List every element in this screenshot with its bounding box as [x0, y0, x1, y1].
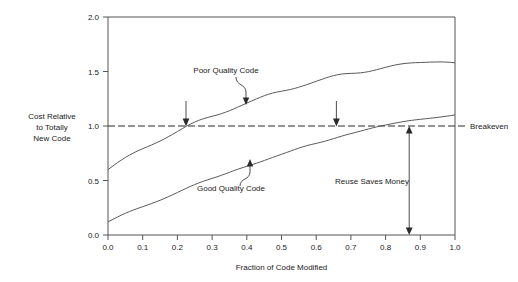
reuse-saves-money-label: Reuse Saves Money	[335, 177, 409, 186]
x-axis-ticks	[108, 235, 455, 240]
x-tick-label-1: 0.1	[137, 243, 149, 252]
y-axis-tick-labels: 0.0 0.5 1.0 1.5 2.0	[88, 13, 100, 240]
savings-span-arrowhead-bottom	[406, 228, 413, 236]
y-tick-label-4: 2.0	[88, 13, 100, 22]
series-poor-quality-code-curve	[108, 62, 455, 170]
chart-figure: 0.0 0.5 1.0 1.5 2.0 0.0 0.1 0.2 0.3 0	[0, 0, 518, 282]
poor-quality-code-label: Poor Quality Code	[193, 66, 259, 75]
y-tick-label-1: 0.5	[88, 177, 100, 186]
x-tick-label-9: 0.9	[415, 243, 427, 252]
x-tick-label-2: 0.2	[172, 243, 184, 252]
y-axis-title-line-1: Cost Relative	[28, 112, 76, 121]
poor-quality-code-leader-arrowhead	[243, 98, 249, 106]
x-tick-label-4: 0.4	[241, 243, 253, 252]
x-tick-label-3: 0.3	[207, 243, 219, 252]
x-tick-label-5: 0.5	[276, 243, 288, 252]
x-tick-label-8: 0.8	[380, 243, 392, 252]
x-tick-label-6: 0.6	[311, 243, 323, 252]
poor-quality-code-leader-line	[236, 77, 246, 99]
good-quality-code-label: Good Quality Code	[197, 184, 266, 193]
y-axis-title-line-3: New Code	[33, 134, 71, 143]
good-quality-breakeven-marker	[333, 101, 340, 127]
series-good-quality-code-curve	[108, 115, 455, 222]
x-tick-label-0: 0.0	[102, 243, 114, 252]
poor-quality-breakeven-marker	[183, 101, 190, 127]
good-quality-code-leader-arrowhead	[247, 159, 253, 167]
y-axis-ticks	[103, 17, 108, 235]
cost-of-reuse-chart: 0.0 0.5 1.0 1.5 2.0 0.0 0.1 0.2 0.3 0	[0, 0, 518, 282]
savings-span-arrowhead-top	[406, 126, 413, 134]
x-axis-tick-labels: 0.0 0.1 0.2 0.3 0.4 0.5 0.6 0.7 0.8 0.9 …	[102, 243, 461, 252]
x-axis-title: Fraction of Code Modified	[236, 263, 328, 272]
annotation-poor-quality-code: Poor Quality Code	[193, 66, 259, 105]
breakeven-label: Breakeven	[470, 122, 508, 131]
x-tick-label-7: 0.7	[345, 243, 357, 252]
y-axis-title-line-2: to Totally	[36, 123, 67, 132]
y-axis-title: Cost Relative to Totally New Code	[28, 112, 76, 143]
y-tick-label-0: 0.0	[88, 231, 100, 240]
y-tick-label-2: 1.0	[88, 122, 100, 131]
good-quality-breakeven-arrowhead	[333, 119, 340, 127]
x-tick-label-10: 1.0	[449, 243, 461, 252]
y-tick-label-3: 1.5	[88, 68, 100, 77]
